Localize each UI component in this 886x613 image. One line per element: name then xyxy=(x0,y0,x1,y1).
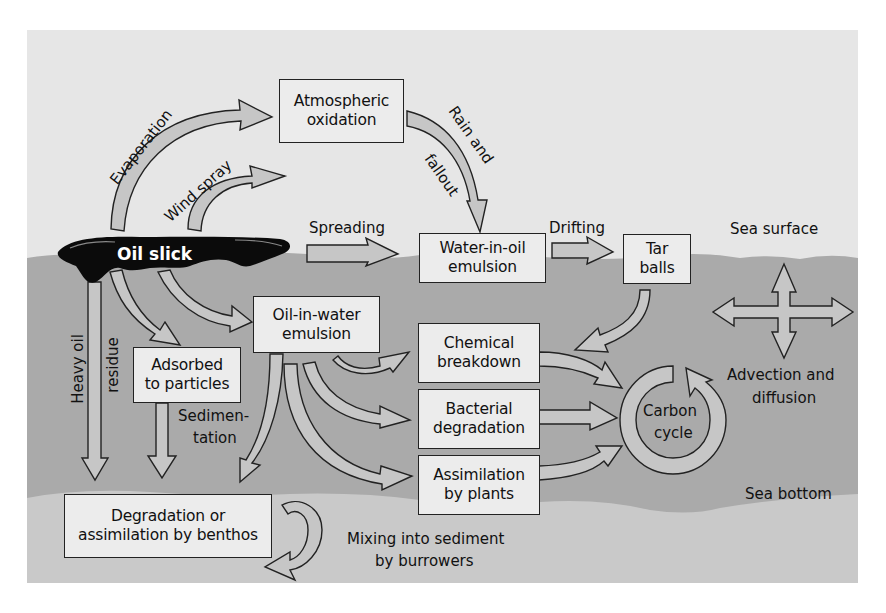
label-carbon-cycle-2: cycle xyxy=(654,424,693,442)
box-bacterial-degradation: Bacterialdegradation xyxy=(418,389,540,449)
box-chemical-breakdown: Chemicalbreakdown xyxy=(418,323,540,383)
label-mixing-2: by burrowers xyxy=(375,552,474,570)
box-oil-in-water-emulsion: Oil-in-wateremulsion xyxy=(253,296,380,353)
label-heavy-oil: Heavy oil xyxy=(69,334,87,404)
box-adsorbed-to-particles: Adsorbedto particles xyxy=(133,347,241,403)
label-mixing-1: Mixing into sediment xyxy=(347,530,504,548)
label-sedimentation-2: tation xyxy=(193,429,237,447)
label-sedimentation-1: Sedimen- xyxy=(178,407,249,425)
label-spreading: Spreading xyxy=(309,219,385,237)
label-residue: residue xyxy=(104,337,122,392)
box-atmospheric-oxidation: Atmosphericoxidation xyxy=(279,79,404,143)
box-assimilation-by-plants: Assimilationby plants xyxy=(418,455,540,515)
label-sea-bottom: Sea bottom xyxy=(745,485,832,503)
box-benthos: Degradation orassimilation by benthos xyxy=(64,494,272,558)
label-sea-surface: Sea surface xyxy=(730,220,818,238)
box-tar-balls: Tarballs xyxy=(623,234,691,284)
label-advection-2: diffusion xyxy=(752,389,816,407)
oil-slick-label: Oil slick xyxy=(117,244,192,264)
label-carbon-cycle-1: Carbon xyxy=(643,402,697,420)
label-drifting: Drifting xyxy=(549,219,605,237)
label-advection-1: Advection and xyxy=(727,366,835,384)
box-water-in-oil-emulsion: Water-in-oilemulsion xyxy=(419,233,546,283)
